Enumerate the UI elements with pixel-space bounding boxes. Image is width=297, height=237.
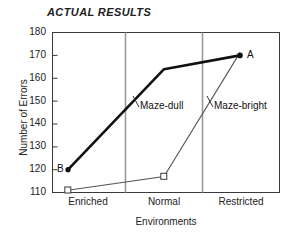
series-label-maze-dull: Maze-dull bbox=[140, 100, 183, 111]
plot-frame bbox=[53, 33, 280, 193]
series-line-maze-dull bbox=[68, 55, 240, 169]
point-label-a: A bbox=[247, 49, 254, 60]
category-gridlines bbox=[126, 33, 203, 193]
series-label-maze-bright: Maze-bright bbox=[214, 100, 267, 111]
x-tick-restricted: Restricted bbox=[218, 196, 263, 207]
x-axis-title: Environments bbox=[52, 216, 280, 227]
point-label-b: B bbox=[57, 163, 64, 174]
y-tick-marks bbox=[53, 55, 58, 169]
series-line-maze-bright bbox=[68, 53, 240, 191]
x-tick-enriched: Enriched bbox=[68, 196, 107, 207]
x-tick-normal: Normal bbox=[148, 196, 180, 207]
series-markers-maze-dull bbox=[65, 53, 242, 173]
chart-figure: ACTUAL RESULTS Number of Errors 180 170 … bbox=[0, 0, 297, 237]
